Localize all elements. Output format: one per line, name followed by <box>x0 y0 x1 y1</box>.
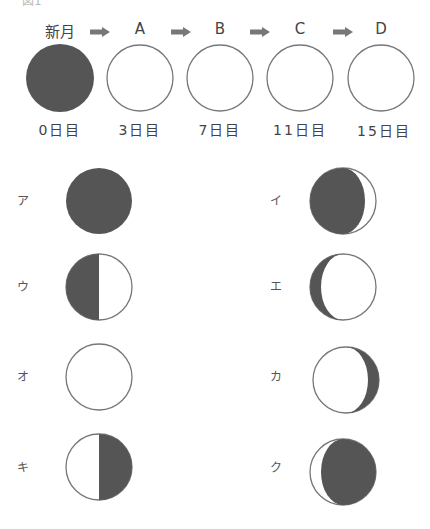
stage-label-d: D <box>351 20 411 38</box>
day-label-7: 7日目 <box>185 119 255 139</box>
moon-dark-left-crescent <box>308 437 378 507</box>
day-label-3: 3日目 <box>105 119 175 139</box>
moon-full-dark <box>64 166 134 236</box>
stage-label-a: A <box>110 20 170 38</box>
stage-label-c: C <box>270 20 330 38</box>
blank-moon-circle-a <box>105 43 175 113</box>
choice-label-ku: ク <box>270 458 282 475</box>
figure-caption: 図1 <box>22 0 42 8</box>
choice-label-o: オ <box>17 367 29 384</box>
new-moon-circle <box>25 43 95 113</box>
moon-full-white <box>64 342 134 412</box>
moon-left-thin-dark-crescent <box>308 252 378 322</box>
blank-moon-circle-c <box>265 43 335 113</box>
moon-left-half-dark <box>64 252 134 322</box>
moon-right-half-dark <box>64 432 134 502</box>
choice-label-ka: カ <box>270 367 282 384</box>
blank-moon-circle-b <box>185 43 255 113</box>
day-label-0: 0日目 <box>25 119 95 139</box>
choice-label-e: エ <box>270 277 282 294</box>
moon-right-thin-dark-crescent <box>311 345 381 415</box>
right-arrow-icon <box>90 27 110 37</box>
right-arrow-icon <box>250 27 270 37</box>
stage-label-new-moon: 新月 <box>30 20 90 41</box>
choice-label-i: イ <box>270 191 282 208</box>
choice-label-a: ア <box>17 191 29 208</box>
right-arrow-icon <box>171 27 191 37</box>
right-arrow-icon <box>333 27 353 37</box>
day-label-11: 11日目 <box>265 119 335 139</box>
day-label-15: 15日目 <box>349 120 419 140</box>
blank-moon-circle-d <box>346 43 416 113</box>
moon-dark-right-crescent <box>308 166 378 236</box>
choice-label-u: ウ <box>17 277 29 294</box>
choice-label-ki: キ <box>17 458 29 475</box>
stage-label-b: B <box>190 20 250 38</box>
